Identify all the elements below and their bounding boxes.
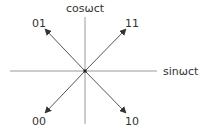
vector-10 (85, 71, 126, 113)
horizontal-axis-label: sinωct (163, 66, 198, 77)
vector-00 (45, 71, 85, 113)
vector-01 (45, 29, 85, 71)
point-label-00: 00 (32, 116, 46, 127)
vector-11 (85, 29, 126, 71)
point-label-11: 11 (125, 18, 139, 29)
point-label-01: 01 (32, 18, 46, 29)
point-label-10: 10 (125, 116, 139, 127)
origin-dot (84, 70, 87, 73)
vertical-axis-label: cosωct (66, 3, 104, 14)
